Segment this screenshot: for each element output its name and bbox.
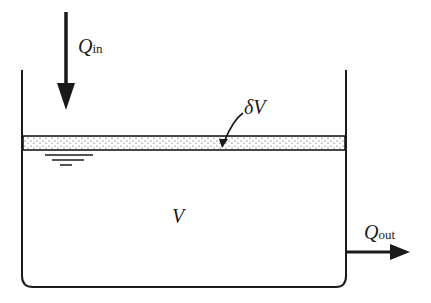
outflow-label: Qout bbox=[364, 222, 395, 242]
water-surface-symbol bbox=[45, 155, 93, 165]
tank-diagram bbox=[0, 0, 431, 303]
volume-change-layer bbox=[23, 136, 345, 150]
inflow-label: Qin bbox=[78, 36, 103, 56]
inflow-arrow bbox=[57, 12, 75, 110]
volume-label: V bbox=[172, 206, 184, 226]
tank-outline bbox=[22, 70, 346, 287]
outflow-arrow bbox=[346, 244, 410, 260]
layer-label: δV bbox=[244, 97, 266, 117]
